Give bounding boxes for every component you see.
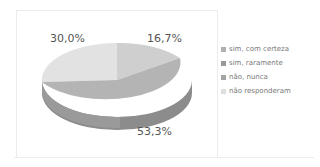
label-53-3: 53,3% — [137, 125, 172, 138]
swatch-icon — [221, 61, 226, 66]
legend-item: não, nunca — [221, 70, 291, 84]
legend: sim, com certeza sim, raramente não, nun… — [221, 42, 291, 98]
slice-nao-responderam — [42, 43, 117, 82]
legend-item: sim, com certeza — [221, 42, 291, 56]
swatch-icon — [221, 75, 226, 80]
swatch-icon — [221, 89, 226, 94]
legend-item: não responderam — [221, 84, 291, 98]
label-30: 30,0% — [50, 32, 85, 45]
legend-item: sim, raramente — [221, 56, 291, 70]
label-16-7: 16,7% — [147, 32, 182, 45]
swatch-icon — [221, 47, 226, 52]
